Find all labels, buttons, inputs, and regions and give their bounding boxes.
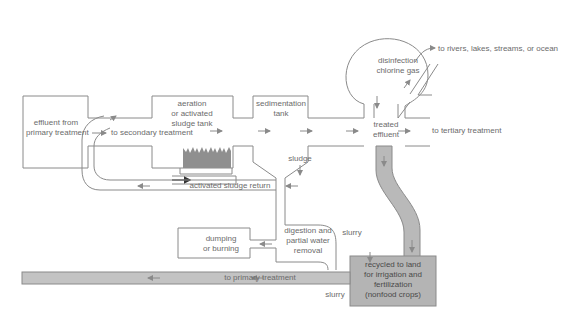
label-slurry-bottom: slurry [322,290,348,300]
label-sludge: sludge [286,154,314,164]
label-to-tertiary: to tertiary treatment [432,126,501,136]
label-treated-effluent: treated effluent [365,120,407,140]
label-to-primary: to primary treatment [210,273,310,283]
label-aeration-tank: aeration or activated sludge tank [152,99,232,129]
label-sedimentation-tank: sedimentation tank [255,99,307,119]
label-to-secondary: to secondary treatment [111,128,193,138]
label-disinfection: disinfection chlorine gas [370,56,426,76]
label-to-rivers: to rivers, lakes, streams, or ocean [438,44,558,54]
label-dumping: dumping or burning [196,234,246,254]
label-activated-sludge-return: activated sludge return [175,181,285,191]
label-digestion: digestion and partial water removal [276,226,340,256]
sludge-pipe-gray [376,146,420,262]
label-slurry-top: slurry [340,228,364,238]
label-primary-effluent: effluent from primary treatment [26,118,86,138]
aeration-bubbles [183,147,231,168]
label-recycled-land: recycled to land for irrigation and fert… [350,260,436,300]
